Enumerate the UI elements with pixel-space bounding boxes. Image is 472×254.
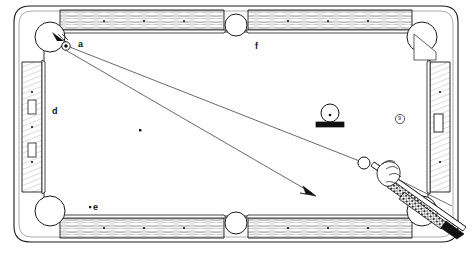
rail-right — [427, 60, 450, 194]
cue-ball — [358, 157, 370, 169]
rail-left — [22, 60, 45, 194]
table-illustration — [0, 0, 472, 254]
pool-table-diagram: a f d e 9 — [0, 0, 472, 254]
label-d: d — [52, 107, 58, 116]
label-e: e — [93, 203, 98, 212]
label-f: f — [255, 42, 258, 51]
label-a: a — [78, 40, 83, 49]
rail-bottom-right — [246, 215, 414, 238]
rail-bottom-left — [58, 215, 226, 238]
rail-top-left — [58, 10, 226, 33]
rail-top-right — [246, 10, 414, 33]
nine-ball-number: 9 — [398, 116, 401, 122]
